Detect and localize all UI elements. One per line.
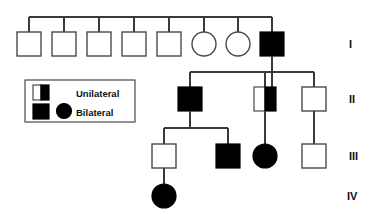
individual-I-3-square-unaffected[interactable] [87,32,111,56]
individual-II-2-right-half-filled [265,87,276,111]
generation-label-2: II [349,93,355,105]
individual-I-8-square-bilateral[interactable] [260,32,284,56]
individual-II-1-square-bilateral[interactable] [178,87,202,111]
individual-III-4-square-unaffected[interactable] [302,144,326,168]
individual-I-2-square-unaffected[interactable] [52,32,76,56]
individual-I-6-circle-unaffected[interactable] [192,32,216,56]
legend-bilateral-filled-circle-icon [57,104,72,119]
individual-III-2-square-bilateral[interactable] [216,144,240,168]
legend-unilateral-left-half-open-icon [33,85,41,100]
pedigree-chart: I II III IV Unilateral Bilateral [0,0,375,215]
generation-2-connectors [190,56,314,88]
generation-label-4: IV [347,190,358,202]
legend-entry-unilateral: Unilateral [33,85,119,100]
individual-III-3-circle-bilateral[interactable] [253,144,277,168]
legend: Unilateral Bilateral [25,80,135,122]
legend-unilateral-right-half-filled-icon [41,85,49,100]
generation-label-3: III [349,150,358,162]
individual-IV-1-circle-bilateral[interactable] [152,184,176,208]
individual-III-1-square-unaffected[interactable] [152,144,176,168]
legend-label-bilateral: Bilateral [76,107,114,118]
individual-II-2-left-half-open [254,87,265,111]
individual-II-3-square-unaffected[interactable] [302,87,326,111]
generation-3-group [152,144,326,168]
generation-1-group [17,17,284,56]
individual-I-4-square-unaffected[interactable] [122,32,146,56]
generation-4-group [152,184,176,208]
legend-bilateral-filled-square-icon [33,104,49,119]
legend-label-unilateral: Unilateral [76,88,119,99]
generation-label-1: I [349,38,352,50]
individual-I-1-square-unaffected[interactable] [17,32,41,56]
individual-I-7-circle-unaffected[interactable] [226,32,250,56]
individual-I-5-square-unaffected[interactable] [157,32,181,56]
pedigree-canvas: I II III IV Unilateral Bilateral [0,0,375,215]
generation-2-group [178,87,326,111]
generation-3-connectors [164,111,314,144]
individual-II-2-square-unilateral[interactable] [254,87,276,111]
